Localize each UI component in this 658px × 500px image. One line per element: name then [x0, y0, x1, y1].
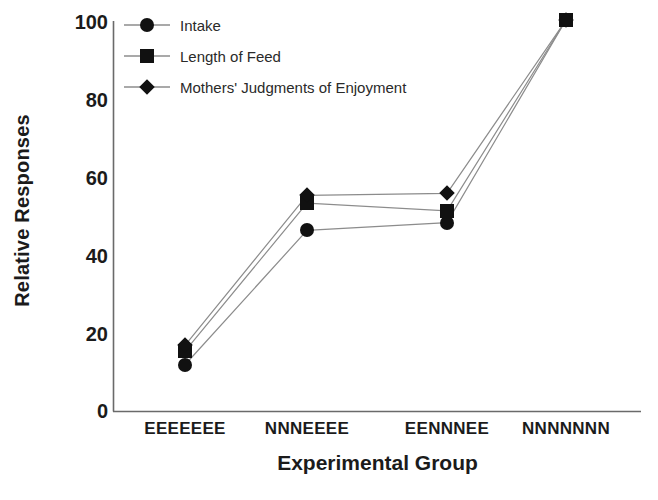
x-axis-title: Experimental Group [113, 451, 642, 475]
y-tick-0: 0 [56, 400, 108, 423]
legend-key-square [124, 46, 170, 66]
legend-item-length-of-feed: Length of Feed [124, 45, 406, 67]
x-tick-label-2: NNNEEEE [265, 419, 349, 439]
data-point-circle-0 [178, 358, 192, 372]
y-tick-100: 100 [56, 11, 108, 34]
x-tick-label-4: NNNNNNN [522, 419, 610, 439]
legend-label-intake: Intake [180, 17, 221, 34]
y-axis-tick-labels: 100 80 60 40 20 0 [52, 0, 108, 440]
legend-item-mothers-judgments: Mothers' Judgments of Enjoyment [124, 76, 406, 98]
y-axis-title: Relative Responses [11, 114, 34, 307]
x-tick-label-1: EEEEEEE [144, 419, 225, 439]
chart-legend: Intake Length of Feed Mothers' Judgments… [124, 14, 406, 98]
legend-item-intake: Intake [124, 14, 406, 36]
y-axis-title-wrap: Relative Responses [0, 0, 44, 420]
legend-label-length-of-feed: Length of Feed [180, 48, 281, 65]
data-point-circle-1 [300, 223, 314, 237]
data-point-diamond-2 [439, 186, 455, 202]
legend-key-diamond [124, 77, 170, 97]
x-tick-label-3: EENNNEE [405, 419, 489, 439]
circle-marker-icon [140, 18, 154, 32]
y-tick-40: 40 [56, 245, 108, 268]
y-tick-80: 80 [56, 89, 108, 112]
legend-label-mothers-judgments: Mothers' Judgments of Enjoyment [180, 79, 406, 96]
legend-key-circle [124, 15, 170, 35]
chart-figure: Relative Responses 100 80 60 40 20 0 EEE… [0, 0, 658, 500]
diamond-marker-icon [142, 82, 153, 93]
square-marker-icon [140, 49, 154, 63]
y-tick-60: 60 [56, 167, 108, 190]
data-point-square-2 [440, 204, 454, 218]
y-tick-20: 20 [56, 323, 108, 346]
